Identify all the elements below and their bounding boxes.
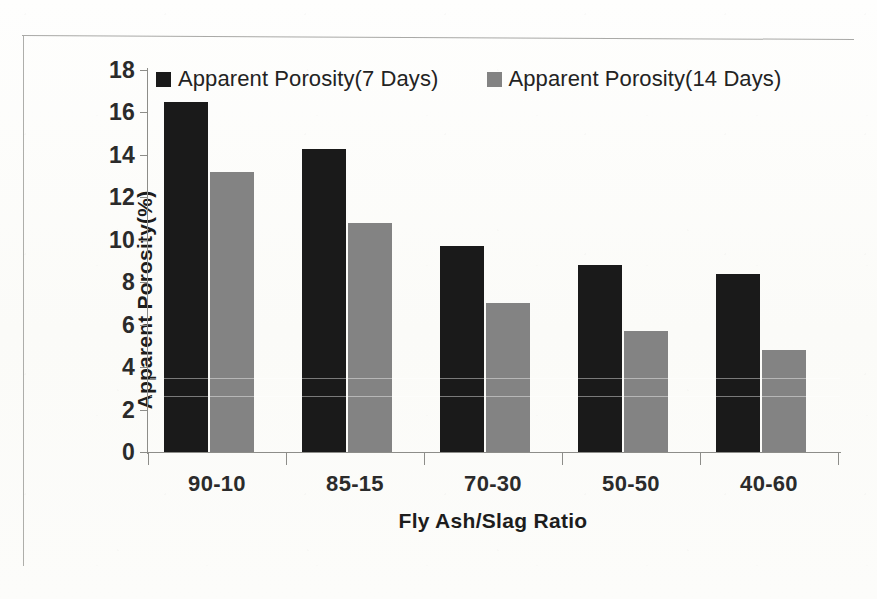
x-axis-line bbox=[141, 452, 841, 453]
bar-chart: Apparent Porosity(%) Fly Ash/Slag Ratio … bbox=[0, 0, 877, 599]
bar bbox=[440, 246, 484, 452]
legend-item-14-days: Apparent Porosity(14 Days) bbox=[487, 66, 782, 92]
y-axis-tick bbox=[140, 240, 148, 241]
bar bbox=[624, 331, 668, 452]
y-axis-tick-label: 14 bbox=[109, 141, 135, 168]
bar bbox=[210, 172, 254, 452]
x-axis-category-tick bbox=[424, 452, 425, 465]
x-axis-category-tick bbox=[700, 452, 701, 465]
y-axis-tick bbox=[140, 410, 148, 411]
y-axis-tick bbox=[140, 112, 148, 113]
y-axis-tick-label: 16 bbox=[109, 99, 135, 126]
y-axis-tick bbox=[140, 282, 148, 283]
x-axis-tick-label: 50-50 bbox=[602, 471, 660, 497]
legend-swatch-dark-icon bbox=[156, 72, 171, 87]
x-axis-title: Fly Ash/Slag Ratio bbox=[148, 509, 838, 533]
bar bbox=[762, 350, 806, 452]
y-axis-tick bbox=[140, 70, 148, 71]
legend-item-7-days: Apparent Porosity(7 Days) bbox=[156, 66, 439, 92]
legend-swatch-gray-icon bbox=[487, 72, 502, 87]
bar bbox=[348, 223, 392, 452]
x-axis-tick-label: 85-15 bbox=[326, 471, 384, 497]
x-axis-tick-label: 70-30 bbox=[464, 471, 522, 497]
legend-label-7-days: Apparent Porosity(7 Days) bbox=[178, 66, 439, 92]
x-axis-tick-label: 90-10 bbox=[188, 471, 246, 497]
y-axis-tick bbox=[140, 367, 148, 368]
y-axis-tick-label: 18 bbox=[109, 57, 135, 84]
y-axis-tick bbox=[140, 155, 148, 156]
y-axis-tick bbox=[140, 197, 148, 198]
bar bbox=[578, 265, 622, 452]
bar bbox=[302, 149, 346, 452]
plot-area: 024681012141618 bbox=[148, 70, 838, 452]
x-axis-category-tick bbox=[286, 452, 287, 465]
y-axis-tick-label: 0 bbox=[122, 439, 135, 466]
x-axis-category-tick bbox=[562, 452, 563, 465]
y-axis-tick bbox=[140, 452, 148, 453]
x-axis-tick-label: 40-60 bbox=[740, 471, 798, 497]
y-axis-tick-label: 12 bbox=[109, 184, 135, 211]
bar bbox=[164, 102, 208, 452]
y-axis-tick-label: 6 bbox=[122, 311, 135, 338]
x-axis-category-tick bbox=[148, 452, 149, 465]
y-axis-tick-label: 8 bbox=[122, 269, 135, 296]
bar bbox=[486, 303, 530, 452]
y-axis-tick bbox=[140, 325, 148, 326]
y-axis-tick-label: 10 bbox=[109, 226, 135, 253]
chart-legend: Apparent Porosity(7 Days) Apparent Poros… bbox=[156, 66, 781, 92]
legend-label-14-days: Apparent Porosity(14 Days) bbox=[509, 66, 782, 92]
x-axis-category-tick bbox=[838, 452, 839, 465]
y-axis-tick-label: 4 bbox=[122, 354, 135, 381]
y-axis-tick-label: 2 bbox=[122, 396, 135, 423]
bar bbox=[716, 274, 760, 452]
